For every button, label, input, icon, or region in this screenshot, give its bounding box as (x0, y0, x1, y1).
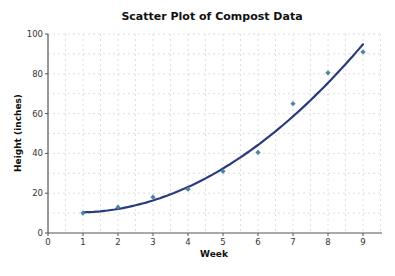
x-tick-label: 3 (150, 237, 155, 247)
x-axis-ticks: 0123456789 (45, 233, 365, 247)
y-axis-label: Height (inches) (13, 94, 23, 172)
data-point-marker (290, 101, 295, 106)
x-tick-label: 2 (115, 237, 120, 247)
y-tick-label: 80 (32, 69, 43, 79)
data-point-marker (325, 70, 330, 75)
x-tick-label: 8 (325, 237, 330, 247)
data-point-marker (255, 150, 260, 155)
y-tick-label: 20 (32, 188, 43, 198)
x-axis-label: Week (200, 249, 229, 259)
x-tick-label: 1 (80, 237, 85, 247)
y-tick-label: 100 (27, 29, 43, 39)
chart-title: Scatter Plot of Compost Data (121, 10, 302, 23)
x-tick-label: 9 (360, 237, 365, 247)
x-tick-label: 6 (255, 237, 260, 247)
x-tick-label: 7 (290, 237, 295, 247)
x-tick-label: 0 (45, 237, 50, 247)
scatter-chart: Scatter Plot of Compost Data 0123456789 … (0, 0, 395, 276)
y-tick-label: 60 (32, 109, 43, 119)
y-tick-label: 40 (32, 148, 43, 158)
y-tick-label: 0 (38, 228, 43, 238)
grid-lines (48, 34, 382, 233)
x-tick-label: 4 (185, 237, 190, 247)
x-tick-label: 5 (220, 237, 225, 247)
y-axis-ticks: 020406080100 (27, 29, 48, 238)
